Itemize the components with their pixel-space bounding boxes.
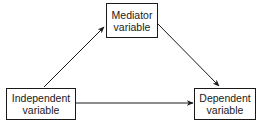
dependent-label-line1: Dependent <box>199 92 250 104</box>
independent-variable-box: Independent variable <box>6 88 76 120</box>
mediator-variable-box: Mediator variable <box>106 3 158 38</box>
arrow-independent-to-mediator <box>44 27 104 87</box>
dependent-variable-box: Dependent variable <box>194 88 256 120</box>
mediator-label-line2: variable <box>114 21 151 33</box>
dependent-label-line2: variable <box>207 104 244 116</box>
mediator-label-line1: Mediator <box>112 9 153 21</box>
independent-label-line2: variable <box>23 104 60 116</box>
independent-label-line1: Independent <box>12 92 70 104</box>
arrow-mediator-to-dependent <box>158 24 219 86</box>
